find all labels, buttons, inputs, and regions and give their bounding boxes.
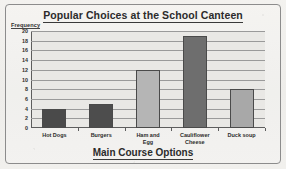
chart-title-text: Popular Choices at the School Canteen [43,9,243,23]
x-axis-title-text: Main Course Options [93,147,194,160]
gridline [31,31,265,32]
y-tick-label: 2 [25,115,28,121]
gridline [31,41,265,42]
bar-ham-and-egg [136,70,160,128]
y-tick-label: 12 [22,67,28,73]
x-axis-title: Main Course Options [0,147,286,158]
y-tick-label: 10 [22,77,28,83]
x-tick-mark [171,128,172,131]
bar-duck-soup [230,89,254,128]
bar-hot-dogs [42,109,66,128]
plot-wrapper: 02468101214161820 Hot DogsBurgersHam and… [31,31,265,128]
x-tick-label: Cauliflower Cheese [171,132,218,146]
x-tick-label: Ham and Egg [125,132,172,146]
y-tick-label: 20 [22,28,28,34]
x-tick-mark [78,128,79,131]
y-tick-label: 8 [25,86,28,92]
y-tick-label: 14 [22,57,28,63]
x-tick-label: Hot Dogs [31,132,78,139]
gridline [31,60,265,61]
x-tick-label: Burgers [78,132,125,139]
x-tick-mark [265,128,266,131]
chart-title: Popular Choices at the School Canteen [0,9,286,21]
x-tick-mark [125,128,126,131]
y-tick-label: 6 [25,96,28,102]
y-tick-label: 4 [25,106,28,112]
y-tick-label: 16 [22,47,28,53]
x-tick-mark [218,128,219,131]
bar-burgers [89,104,113,128]
bar-cauliflower-cheese [183,36,207,128]
y-tick-label: 0 [25,125,28,131]
y-tick-label: 18 [22,38,28,44]
x-tick-label: Duck soup [218,132,265,139]
gridline [31,50,265,51]
chart-figure: Popular Choices at the School Canteen Fr… [0,0,286,169]
